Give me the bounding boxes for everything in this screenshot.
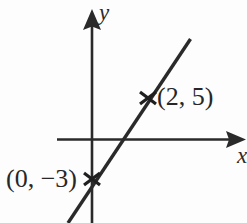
point-label-0-neg3: (0, −3): [6, 166, 77, 192]
x-axis-label: x: [237, 144, 247, 167]
plotted-line: [68, 39, 191, 223]
point-label-2-5: (2, 5): [157, 84, 213, 110]
coordinate-plane-figure: y x (2, 5) (0, −3): [0, 0, 247, 223]
y-axis-label: y: [99, 1, 109, 24]
